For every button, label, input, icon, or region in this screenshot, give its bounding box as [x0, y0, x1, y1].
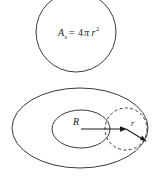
formula-subscript-s: s [65, 33, 68, 40]
torus-outer-ellipse [12, 88, 148, 168]
formula-pi-symbol: π [84, 27, 90, 38]
formula-exponent-2: 2 [96, 25, 99, 32]
sphere-outline-circle [36, 0, 116, 72]
formula-coefficient-4: 4 [78, 27, 83, 38]
figure-svg: A s = 4 π r 2 R [0, 0, 157, 176]
major-radius-label-R: R [72, 116, 79, 127]
torus-group: R r [12, 88, 148, 168]
major-radius-arrow [81, 126, 127, 132]
minor-radius-arrow [126, 129, 147, 142]
sphere-surface-area-formula: A s = 4 π r 2 [57, 25, 99, 40]
major-radius-arrowhead [120, 126, 127, 132]
minor-radius-label-r: r [131, 119, 135, 128]
sphere-group: A s = 4 π r 2 [36, 0, 116, 72]
formula-equals-sign: = [69, 27, 75, 38]
formula-radius-symbol: r [92, 27, 96, 38]
geometry-figure-canvas: A s = 4 π r 2 R [0, 0, 157, 176]
